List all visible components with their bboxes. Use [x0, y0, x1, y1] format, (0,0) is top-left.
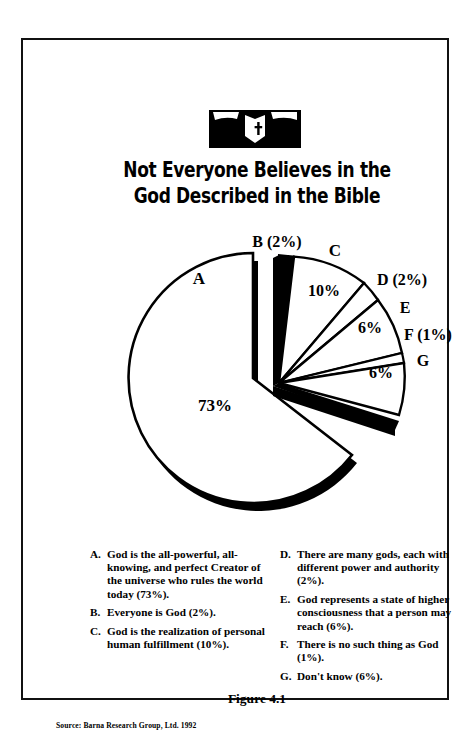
pie-label-C: C: [329, 241, 341, 260]
legend-item-c: C. God is the realization of personal hu…: [90, 625, 276, 651]
pie-label-G: G: [417, 352, 430, 369]
page-title: Not Everyone Believes in the God Describ…: [77, 157, 436, 209]
legend-text-f: There is no such thing as God (1%).: [297, 638, 466, 664]
legend-key-a: A.: [90, 548, 107, 601]
legend-item-a: A. God is the all-powerful, all-knowing,…: [90, 548, 276, 601]
chart-legend: A. God is the all-powerful, all-knowing,…: [78, 548, 458, 678]
pie-value-C: 10%: [308, 282, 340, 299]
legend-column-left: A. God is the all-powerful, all-knowing,…: [90, 548, 276, 657]
pie-value-G: 6%: [369, 364, 393, 381]
pie-label-E: E: [400, 299, 411, 316]
pie-value-A: 73%: [198, 396, 232, 415]
open-bible-cross-icon: [209, 110, 301, 148]
legend-text-g: Don't know (6%).: [297, 670, 382, 683]
legend-item-e: E. God represents a state of higher cons…: [280, 593, 466, 633]
figure-source: Source: Barna Research Group, Ltd. 1992: [56, 721, 196, 730]
legend-key-e: E.: [280, 593, 297, 633]
pie-label-D: D (2%): [377, 271, 427, 289]
pie-label-B: B (2%): [252, 236, 301, 251]
legend-item-f: F. There is no such thing as God (1%).: [280, 638, 466, 664]
title-line-1: Not Everyone Believes in the: [77, 157, 436, 183]
pie-chart: A 73% B (2%) C 10% D (2%) E 6% F (1%) G …: [47, 236, 467, 526]
legend-text-e: God represents a state of higher conscio…: [297, 593, 466, 633]
pie-value-E: 6%: [358, 319, 382, 336]
figure-page: Not Everyone Believes in the God Describ…: [0, 0, 468, 738]
legend-key-g: G.: [280, 670, 297, 683]
legend-key-b: B.: [90, 606, 107, 619]
pie-label-A: A: [193, 269, 206, 288]
figure-caption: Figure 4.1: [53, 691, 461, 707]
legend-text-b: Everyone is God (2%).: [107, 606, 216, 619]
legend-key-f: F.: [280, 638, 297, 664]
legend-item-d: D. There are many gods, each with differ…: [280, 548, 466, 588]
legend-text-a: God is the all-powerful, all-knowing, an…: [107, 548, 276, 601]
legend-text-c: God is the realization of personal human…: [107, 625, 276, 651]
figure-frame: Not Everyone Believes in the God Describ…: [21, 38, 449, 700]
legend-item-b: B. Everyone is God (2%).: [90, 606, 276, 619]
legend-column-right: D. There are many gods, each with differ…: [280, 548, 466, 689]
legend-key-d: D.: [280, 548, 297, 588]
pie-label-F: F (1%): [404, 326, 452, 344]
title-line-2: God Described in the Bible: [77, 183, 436, 209]
legend-item-g: G. Don't know (6%).: [280, 670, 466, 683]
legend-text-d: There are many gods, each with different…: [297, 548, 466, 588]
legend-key-c: C.: [90, 625, 107, 651]
